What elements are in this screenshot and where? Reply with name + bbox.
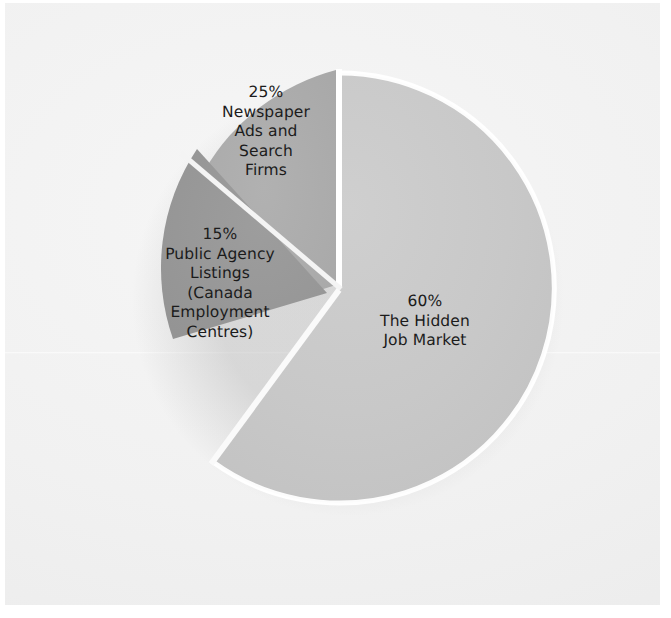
chart-page: 60% The Hidden Job Market 25% Newspaper …: [0, 0, 671, 618]
pie-chart: 60% The Hidden Job Market 25% Newspaper …: [5, 3, 660, 605]
slice-label-newspaper-ads: 25% Newspaper Ads and Search Firms: [191, 83, 341, 181]
slice-label-hidden-job-market: 60% The Hidden Job Market: [335, 292, 515, 351]
paper-surface: 60% The Hidden Job Market 25% Newspaper …: [5, 3, 660, 605]
slice-label-public-agency: 15% Public Agency Listings (Canada Emplo…: [130, 225, 310, 342]
